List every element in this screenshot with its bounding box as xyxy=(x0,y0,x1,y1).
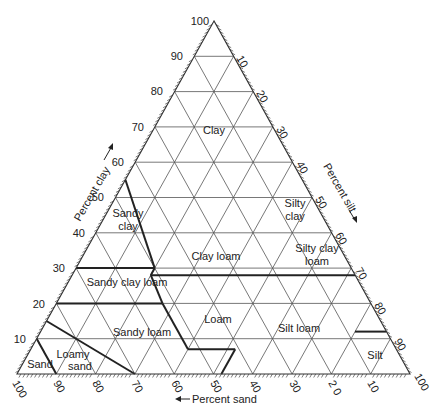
region-label-sand: Sand xyxy=(27,358,53,370)
sand-tick-label: 10 xyxy=(365,378,382,395)
grid-lines xyxy=(37,56,391,374)
sand-tick-label: 70 xyxy=(129,378,146,395)
clay-tick-label: 40 xyxy=(73,227,85,239)
region-label-silt: Silt xyxy=(367,349,382,361)
sand-tick-label: 30 xyxy=(287,378,304,395)
region-label-loam: Loam xyxy=(204,313,232,325)
arrow-up-icon-head xyxy=(108,143,113,150)
region-label-clay: Clay xyxy=(203,124,226,136)
silt-tick-label: 70 xyxy=(353,265,370,282)
silt-tick-label: 50 xyxy=(313,194,330,211)
region-label-sandy-loam: Sandy loam xyxy=(113,326,171,338)
silt-gridline xyxy=(214,198,313,375)
region-label-clay-loam: Clay loam xyxy=(192,250,241,262)
region-label-loamy-sand: Loamy xyxy=(56,348,90,360)
sand-tick-label: 90 xyxy=(51,378,68,395)
sand-tick-label: 60 xyxy=(169,378,186,395)
clay-tick-label: 20 xyxy=(33,298,45,310)
region-label-silty-clay: clay xyxy=(285,210,305,222)
region-label-sandy-clay: Sandy xyxy=(112,207,144,219)
clay-tick-label: 100 xyxy=(191,15,209,27)
clay-tick-label: 90 xyxy=(171,50,183,62)
region-label-silt-loam: Silt loam xyxy=(278,322,320,334)
silt-tick-label: 20 xyxy=(254,88,271,105)
sand-tick-label: 100 xyxy=(10,378,30,400)
region-label-silty-clay: Silty xyxy=(285,197,306,209)
soil-texture-triangle: 10 20 30 40 50 60 70 80 90 100 10 20 30 … xyxy=(0,0,442,419)
sand-tick-label: 2 0 xyxy=(326,378,344,397)
silt-tick-label: 100 xyxy=(412,371,432,393)
silt-axis-title-group: Percent silt xyxy=(321,161,359,223)
boundary-join xyxy=(151,268,155,275)
clay-tick-label: 10 xyxy=(14,333,26,345)
sand-axis-title: Percent sand xyxy=(192,393,257,405)
clay-tick-label: 60 xyxy=(112,156,124,168)
clay-tick-label: 30 xyxy=(53,262,65,274)
silt-axis-labels: 10 20 30 40 50 60 70 80 90 100 xyxy=(234,53,432,393)
sand-tick-label: 80 xyxy=(90,378,107,395)
clay-tick-label: 80 xyxy=(151,85,163,97)
region-label-sandy-clay-loam: Sandy clay loam xyxy=(87,276,168,288)
silt-tick-label: 90 xyxy=(392,336,409,353)
silt-tick-label: 30 xyxy=(274,124,291,141)
clay-tick-label: 70 xyxy=(132,121,144,133)
region-label-loamy-sand: sand xyxy=(68,360,92,372)
arrow-left-icon-head xyxy=(175,396,181,402)
region-label-silty-clay-loam: loam xyxy=(305,255,329,267)
silt-tick-label: 10 xyxy=(234,53,251,70)
clay-axis-labels: 10 20 30 40 50 60 70 80 90 100 xyxy=(14,15,209,345)
silt-tick-label: 40 xyxy=(294,159,311,176)
silt-tick-label: 80 xyxy=(372,300,389,317)
region-label-sandy-clay: clay xyxy=(118,220,138,232)
clay-axis-title-group: Percent clay xyxy=(71,143,113,223)
boundary-loam-bottom xyxy=(221,349,235,374)
region-label-silty-clay-loam: Silty clay xyxy=(295,242,339,254)
sand-axis-title-group: Percent sand xyxy=(175,393,257,405)
